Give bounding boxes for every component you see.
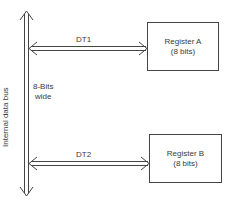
register-a-name: Register A [165,37,202,47]
register-a-size: (8 bits) [171,47,195,57]
register-b-size: (8 bits) [173,159,197,169]
dt1-arrowhead-right-icon [139,42,147,55]
register-a-box: Register A (8 bits) [147,22,219,71]
register-b-name: Register B [167,149,204,159]
dt2-label: DT2 [76,150,91,159]
dt2-arrowhead-left-icon [29,157,37,170]
dt2-arrowhead-right-icon [141,157,149,170]
bus-label: Internal data bus [1,87,10,147]
bus-arrowhead-down-icon [20,187,33,196]
dt1-label: DT1 [76,35,91,44]
bus-width-label: 8-Bits wide [33,82,53,102]
internal-data-bus [20,11,33,196]
register-b-box: Register B (8 bits) [149,134,222,183]
dt1-arrowhead-left-icon [29,42,37,55]
bus-width-line1: 8-Bits [33,82,53,92]
bus-width-line2: wide [33,92,53,102]
bus-arrowhead-up-icon [20,11,33,20]
